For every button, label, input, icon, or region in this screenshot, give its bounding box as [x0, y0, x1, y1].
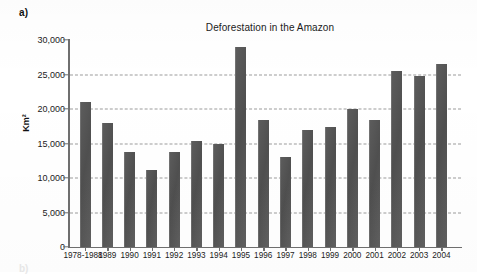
y-axis-tick-label: 5,000 [42, 208, 65, 218]
bar [369, 120, 380, 247]
x-axis-tick-label: 2003 [410, 251, 428, 260]
bar [436, 64, 447, 247]
bar [169, 152, 180, 247]
bar [213, 144, 224, 247]
bar [325, 127, 336, 247]
y-axis-tick-label: 25,000 [37, 70, 65, 80]
x-axis-tick-label: 1989 [98, 251, 116, 260]
chart-title: Deforestation in the Amazon [140, 22, 400, 33]
x-axis-tick-label: 1978-1988 [63, 251, 102, 260]
plot-area [69, 40, 461, 247]
bar [391, 71, 402, 247]
bar [80, 102, 91, 247]
bar [146, 170, 157, 247]
x-axis-tick-label: 2001 [365, 251, 383, 260]
x-axis-tick-label: 2002 [388, 251, 406, 260]
x-axis-tick-label: 1992 [165, 251, 183, 260]
x-axis-tick-label: 2000 [343, 251, 361, 260]
x-axis-tick-label: 1993 [187, 251, 205, 260]
y-axis-tick-label: 10,000 [37, 173, 65, 183]
bar [347, 109, 358, 247]
x-axis-tick-label: 1991 [143, 251, 161, 260]
x-axis-tick-label: 1995 [232, 251, 250, 260]
panel-label: a) [19, 7, 28, 18]
x-axis-tick-label: 2004 [432, 251, 450, 260]
y-axis-tick-label: 15,000 [37, 139, 65, 149]
next-panel-label: b) [19, 263, 28, 274]
x-axis-tick-label: 1994 [210, 251, 228, 260]
bar [191, 141, 202, 247]
bar [102, 123, 113, 247]
bar [258, 120, 269, 247]
y-axis-title: Km² [21, 103, 31, 143]
y-axis-tick-label: 20,000 [37, 104, 65, 114]
y-axis-tick-label: 30,000 [37, 35, 65, 45]
bar [235, 47, 246, 247]
bar [302, 130, 313, 247]
bar [124, 152, 135, 247]
x-axis-tick-label: 1996 [254, 251, 272, 260]
x-axis-tick-label: 1998 [299, 251, 317, 260]
x-axis-tick-label: 1997 [276, 251, 294, 260]
bar [414, 76, 425, 247]
x-axis-tick-label: 1999 [321, 251, 339, 260]
bar [280, 157, 291, 247]
x-axis-tick-label: 1990 [120, 251, 138, 260]
